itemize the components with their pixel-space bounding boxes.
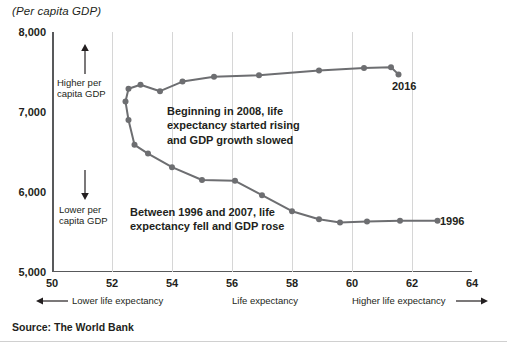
data-point [388,64,394,70]
data-point [337,219,343,225]
y-axis-high-label-line2: capita GDP [57,88,106,100]
x-axis-right-label: Higher life expectancy [352,295,445,307]
x-tick-label: 54 [166,277,178,289]
data-point [126,117,132,123]
data-point [169,164,175,170]
data-point [199,177,205,183]
point-label-1996: 1996 [440,215,464,227]
lower-life-expectancy-arrow-icon [36,296,68,306]
data-point [132,142,138,148]
data-point [138,82,144,88]
x-axis-center-label: Life expectancy [232,295,298,307]
data-point [397,218,403,224]
y-tick-label: 5,000 [18,266,46,278]
x-axis-left-label: Lower life expectancy [72,295,163,307]
higher-life-expectancy-arrow-icon [456,296,488,306]
footer-divider [0,341,507,342]
data-point [211,74,217,80]
data-point [364,219,370,225]
data-point [361,65,367,71]
chart-title: (Per capita GDP) [12,5,101,17]
x-tick-label: 64 [466,277,478,289]
y-tick-label: 6,000 [18,186,46,198]
y-tick-label: 7,000 [18,106,46,118]
source-note: Source: The World Bank [12,321,134,333]
data-point [123,99,129,105]
data-point [180,79,186,85]
data-point [256,72,262,78]
x-tick-label: 56 [226,277,238,289]
data-point [316,67,322,73]
annotation-lower: Between 1996 and 2007, life expectancy f… [130,205,298,234]
data-point [396,71,402,77]
point-label-2016: 2016 [392,80,416,92]
x-tick-label: 50 [46,277,58,289]
y-tick-label: 8,000 [18,26,46,38]
x-tick-label: 58 [286,277,298,289]
lower-gdp-arrow-icon [78,170,92,200]
x-tick-label: 52 [106,277,118,289]
y-axis-low-label-line2: capita GDP [59,215,108,227]
data-point [126,86,132,92]
data-point [316,216,322,222]
plot-area: 5,0006,0007,0008,000 5052545658606264 Be… [52,32,472,272]
data-point [145,151,151,157]
annotation-upper: Beginning in 2008, life expectancy start… [167,104,317,147]
data-point [157,88,163,94]
x-tick-label: 62 [406,277,418,289]
data-point [232,178,238,184]
data-series [52,32,472,272]
x-tick-label: 60 [346,277,358,289]
data-point [259,192,265,198]
higher-gdp-arrow-icon [78,44,92,74]
chart-root: (Per capita GDP) 5,0006,0007,0008,000 50… [0,0,507,345]
